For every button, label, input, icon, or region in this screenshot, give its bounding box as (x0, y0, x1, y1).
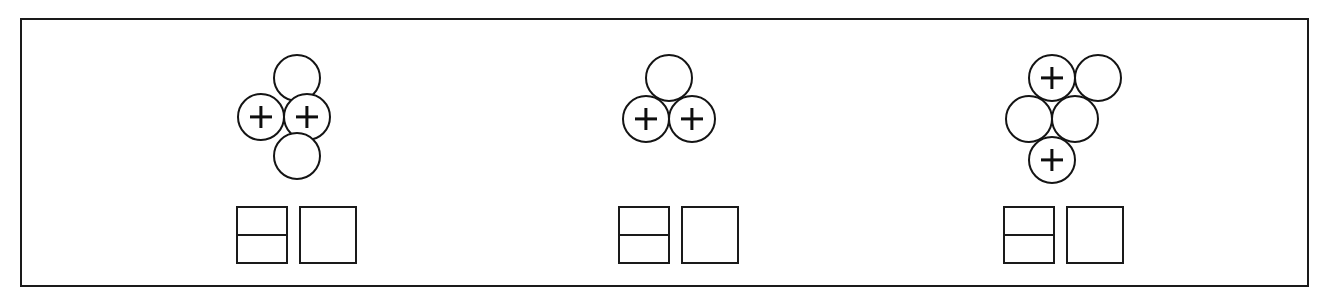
whole-square[interactable] (681, 206, 739, 264)
plus-icon (681, 108, 703, 130)
circle-bottom-left-marked[interactable] (622, 95, 670, 143)
group-3-box-row (1003, 206, 1124, 264)
group-2-box-row (618, 206, 739, 264)
split-cell-top[interactable] (238, 208, 286, 234)
diagram-outer-frame (20, 18, 1309, 287)
four-circle-diamond-cluster (237, 54, 331, 180)
plus-icon (296, 106, 318, 128)
split-cell-bottom[interactable] (238, 234, 286, 262)
plus-icon (635, 108, 657, 130)
split-cell-bottom[interactable] (620, 234, 668, 262)
plus-icon (1041, 149, 1063, 171)
circle-middle-right-unmarked[interactable] (1051, 95, 1099, 143)
split-cell-top[interactable] (1005, 208, 1053, 234)
circle-middle-left-marked[interactable] (237, 93, 285, 141)
split-rectangle-two-rows[interactable] (1003, 206, 1055, 264)
plus-icon (1041, 67, 1063, 89)
split-cell-bottom[interactable] (1005, 234, 1053, 262)
diagram-canvas (0, 0, 1330, 304)
whole-square[interactable] (1066, 206, 1124, 264)
group-1-box-row (236, 206, 357, 264)
circle-bottom-marked[interactable] (1028, 136, 1076, 184)
circle-top-right-unmarked[interactable] (1074, 54, 1122, 102)
five-circle-offset-cluster (1005, 54, 1122, 184)
split-rectangle-two-rows[interactable] (618, 206, 670, 264)
three-circle-triangle-cluster (622, 54, 716, 143)
split-cell-top[interactable] (620, 208, 668, 234)
split-rectangle-two-rows[interactable] (236, 206, 288, 264)
circle-bottom-unmarked[interactable] (273, 132, 321, 180)
circle-bottom-right-marked[interactable] (668, 95, 716, 143)
plus-icon (250, 106, 272, 128)
whole-square[interactable] (299, 206, 357, 264)
